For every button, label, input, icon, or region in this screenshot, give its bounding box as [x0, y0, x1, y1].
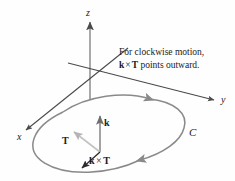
k-cross-T-label-k: k	[89, 155, 95, 166]
annotation-line-1: For clockwise motion,	[119, 46, 204, 59]
curve-arc-right	[140, 99, 185, 160]
T-vector-arrow	[74, 132, 100, 152]
annotation-note: For clockwise motion, k×T points outward…	[119, 46, 204, 71]
x-axis-line	[26, 48, 128, 130]
k-cross-T-label-times: ×	[95, 155, 104, 166]
k-vector-label: k	[104, 118, 110, 128]
curve-label: C	[189, 127, 196, 138]
vector-field-diagram: For clockwise motion, k×T points outward…	[0, 0, 235, 181]
annotation-line-2: k×T points outward.	[119, 59, 204, 72]
z-axis-label: z	[86, 8, 90, 18]
annotation-times-symbol: ×	[124, 60, 131, 70]
diagram-canvas	[0, 0, 235, 181]
k-cross-T-label-T: T	[103, 155, 110, 166]
annotation-rest-text: points outward.	[138, 60, 199, 70]
T-vector-label: T	[62, 136, 69, 146]
curve-arc-top	[63, 95, 150, 112]
k-cross-T-label: k×T	[89, 156, 110, 166]
y-axis-label: y	[221, 95, 225, 105]
x-axis-label: x	[17, 132, 21, 142]
